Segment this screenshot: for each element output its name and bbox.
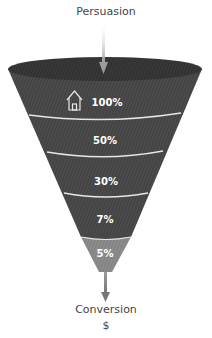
- currency-label: $: [0, 319, 212, 332]
- conversion-arrow-icon: [101, 272, 110, 302]
- funnel-diagram: Persuasion: [0, 0, 212, 338]
- stage-label-5: 5%: [85, 248, 125, 260]
- stage-label-100: 100%: [87, 97, 127, 109]
- conversion-label: Conversion: [0, 303, 212, 316]
- funnel-graphic: [0, 0, 212, 338]
- stage-label-50: 50%: [85, 135, 125, 147]
- stage-label-30: 30%: [86, 176, 126, 188]
- stage-label-7: 7%: [85, 214, 125, 226]
